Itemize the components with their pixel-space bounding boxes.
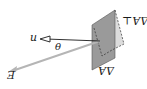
label-perpendicular-area: ΔA⊥ [122,15,147,26]
label-field-vector: E [7,69,15,80]
label-area: ΔA [98,65,114,76]
label-normal-vector: n [30,33,37,44]
field-symbol: E [7,68,15,81]
label-angle-theta: θ [55,41,61,51]
plate-surface [92,10,115,70]
normal-arrowhead-icon [40,36,50,42]
